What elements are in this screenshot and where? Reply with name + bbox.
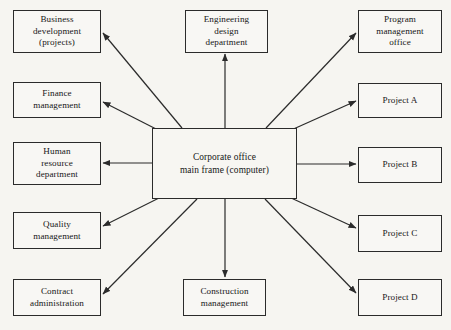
node-finance-management[interactable]: Finance management — [13, 82, 101, 118]
node-label-engineering-design-department: Engineering design department — [202, 14, 252, 49]
node-label-quality-management: Quality management — [31, 219, 82, 242]
node-business-development[interactable]: Business development (projects) — [13, 10, 101, 53]
node-label-human-resource-department: Human resource department — [34, 146, 80, 181]
node-label-project-d: Project D — [380, 292, 420, 304]
node-project-c[interactable]: Project C — [358, 215, 442, 252]
node-label-project-a: Project A — [381, 95, 420, 107]
node-label-program-management-office: Program management office — [374, 14, 425, 49]
edge-hub-to-project-c — [289, 197, 356, 228]
node-quality-management[interactable]: Quality management — [13, 212, 101, 249]
edge-hub-to-project-a — [289, 101, 356, 131]
node-label-construction-management: Construction management — [198, 286, 250, 309]
edge-hub-to-program-management-office — [266, 33, 356, 128]
node-program-management-office[interactable]: Program management office — [358, 10, 442, 53]
edge-hub-to-finance-management — [103, 102, 160, 131]
node-project-a[interactable]: Project A — [358, 83, 442, 118]
node-label-project-b: Project B — [381, 159, 420, 171]
diagram-canvas: Corporate office main frame (computer)Bu… — [0, 0, 451, 330]
node-engineering-design-department[interactable]: Engineering design department — [185, 10, 268, 53]
edge-hub-to-quality-management — [103, 197, 161, 226]
edge-hub-to-business-development — [103, 33, 182, 128]
node-label-project-c: Project C — [381, 228, 420, 240]
node-human-resource-department[interactable]: Human resource department — [13, 142, 101, 185]
node-contract-administration[interactable]: Contract administration — [13, 279, 101, 316]
node-label-corporate-office-main-frame: Corporate office main frame (computer) — [178, 151, 271, 176]
node-project-d[interactable]: Project D — [358, 279, 442, 316]
node-project-b[interactable]: Project B — [358, 147, 442, 183]
node-label-finance-management: Finance management — [31, 88, 82, 111]
node-label-contract-administration: Contract administration — [28, 286, 86, 309]
node-corporate-office-main-frame[interactable]: Corporate office main frame (computer) — [152, 128, 297, 199]
node-construction-management[interactable]: Construction management — [183, 279, 266, 316]
node-label-business-development: Business development (projects) — [31, 14, 83, 49]
edge-hub-to-project-d — [265, 199, 356, 293]
